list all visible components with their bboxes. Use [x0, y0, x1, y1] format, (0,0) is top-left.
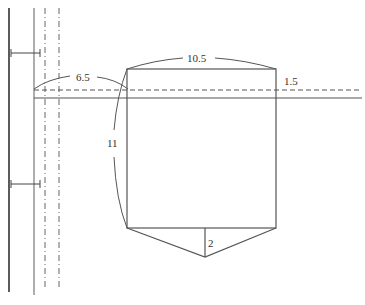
arc-height-bottom: [114, 157, 127, 228]
bottom-point: [127, 228, 276, 257]
rectangle-body: [127, 69, 276, 228]
label-point-depth: 2: [208, 237, 214, 249]
label-right-offset: 1.5: [284, 75, 298, 87]
arc-top-width-left: [127, 58, 183, 69]
label-height: 11: [107, 137, 118, 149]
label-top-width: 10.5: [187, 52, 207, 64]
wall-dimension-bottom: [11, 180, 40, 188]
arc-height-top: [114, 69, 127, 130]
arc-offset-left: [34, 76, 70, 89]
diagram-canvas: 6.5 10.5 1.5 11 2: [0, 0, 365, 305]
label-offset-left: 6.5: [76, 71, 90, 83]
wall-dimension-top: [11, 49, 40, 57]
diagram-svg: 6.5 10.5 1.5 11 2: [0, 0, 365, 305]
arc-top-width-right: [215, 58, 276, 69]
